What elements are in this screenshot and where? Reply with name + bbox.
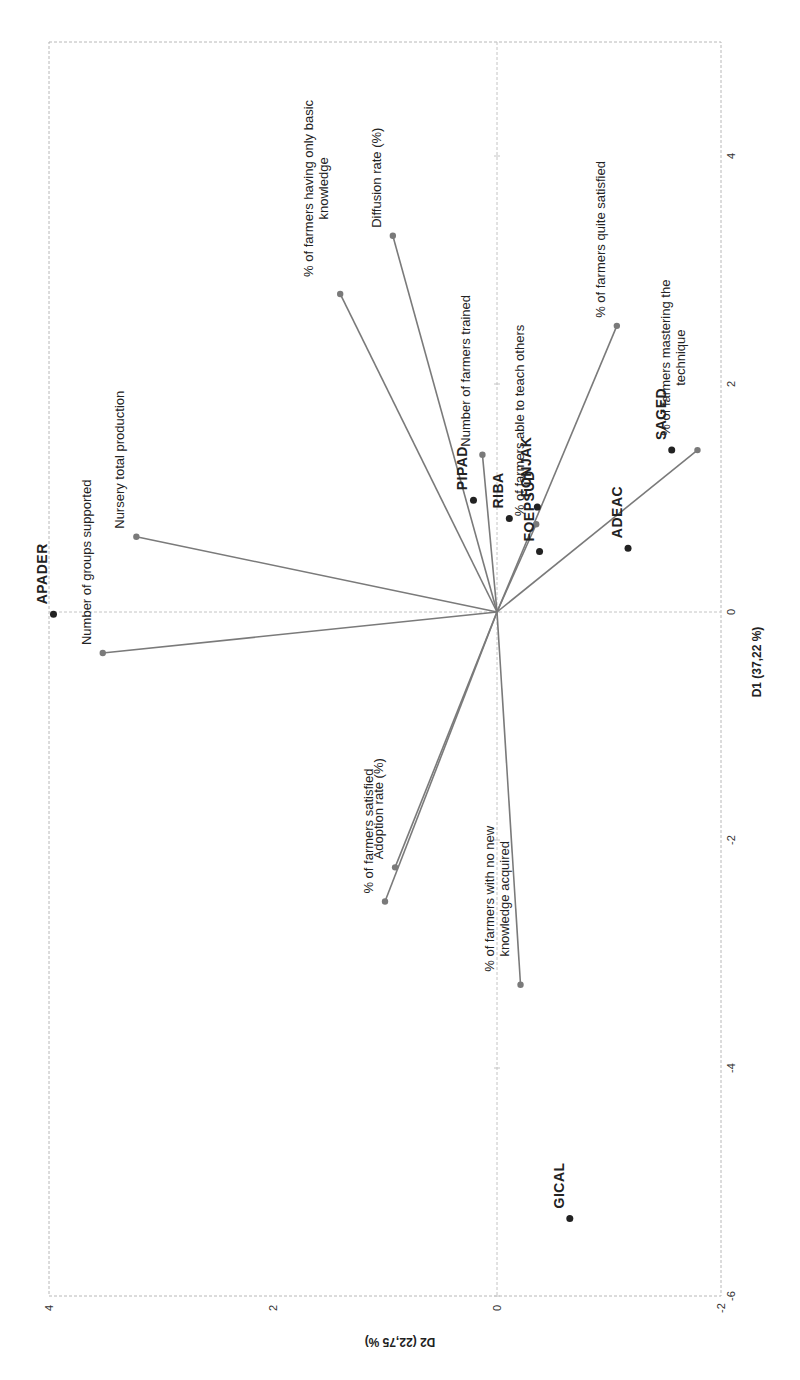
x-axis-title: D1 (37,22 %) [750, 627, 764, 698]
observation-marker [536, 548, 543, 555]
x-tick-label: 4 [725, 153, 737, 159]
vector-line [136, 537, 497, 612]
observation-point: PIPAD [454, 446, 477, 504]
observation-marker [566, 1215, 573, 1222]
vector-endpoint [133, 534, 139, 540]
axis-titles: D1 (37,22 %) D2 (22,75 %) [365, 627, 764, 1349]
variable-label: knowledge [316, 157, 331, 219]
observation-points: APADERPIPADRIBAFONJAKFOEPSUDADEACSAGEDGI… [34, 388, 675, 1222]
plot-area-border [49, 42, 721, 1296]
variable-vectors: Number of groups supportedNursery total … [79, 99, 701, 988]
observation-marker [625, 545, 632, 552]
vector-endpoint [614, 323, 620, 329]
x-tick-label: -6 [725, 1291, 737, 1301]
observation-label: RIBA [490, 472, 506, 508]
x-tick-label: -4 [725, 1063, 737, 1073]
variable-vector: % of farmers with no newknowledge acquir… [482, 612, 524, 988]
vector-endpoint [337, 291, 343, 297]
variable-label: technique [673, 329, 688, 385]
plot-frame [49, 42, 721, 1296]
variable-label: knowledge acquired [497, 841, 512, 957]
variable-vector: Adoption rate (%) [371, 612, 497, 871]
vector-line [340, 294, 497, 612]
observation-point: GICAL [551, 1162, 574, 1222]
vector-endpoint [100, 650, 106, 656]
vector-endpoint [390, 233, 396, 239]
variable-label: % of farmers having only basic [301, 99, 316, 277]
pca-biplot: -6-4-2024-2024 Number of groups supporte… [0, 0, 800, 1380]
vector-endpoint [517, 982, 523, 988]
observation-label: APADER [34, 543, 50, 604]
observation-point: APADER [34, 543, 57, 618]
variable-label: Diffusion rate (%) [369, 128, 384, 228]
vector-line [385, 612, 497, 902]
observation-marker [668, 447, 675, 454]
y-tick-label: 2 [267, 1305, 279, 1311]
x-tick-label: 2 [725, 381, 737, 387]
observation-label: FOEPSUD [521, 470, 537, 541]
variable-label: % of farmers with no new [482, 825, 497, 972]
vector-endpoint [382, 898, 388, 904]
vector-line [103, 612, 497, 653]
y-tick-label: 0 [491, 1305, 503, 1311]
x-tick-label: 0 [725, 609, 737, 615]
y-tick-label: -2 [715, 1303, 727, 1313]
observation-label: ADEAC [609, 486, 625, 538]
observation-label: SAGED [653, 388, 669, 440]
variable-label: Number of farmers trained [458, 295, 473, 447]
variable-label: % of farmers satisfied [361, 769, 376, 894]
observation-point: RIBA [490, 472, 513, 522]
y-axis-title: D2 (22,75 %) [365, 1335, 436, 1349]
variable-vector: Nursery total production [112, 391, 497, 612]
observation-point: FOEPSUD [521, 470, 544, 555]
variable-label: Nursery total production [112, 391, 127, 529]
variable-label: Number of groups supported [79, 480, 94, 645]
observation-label: GICAL [551, 1162, 567, 1208]
x-tick-label: -2 [725, 835, 737, 845]
vector-endpoint [694, 447, 700, 453]
variable-vector: Diffusion rate (%) [369, 128, 497, 612]
axes: -6-4-2024-2024 [43, 42, 737, 1313]
observation-marker [506, 515, 513, 522]
observation-marker [470, 497, 477, 504]
vector-endpoint [479, 451, 485, 457]
y-tick-label: 4 [43, 1305, 55, 1311]
variable-label: % of farmers quite satisfied [593, 161, 608, 318]
vector-line [393, 236, 497, 612]
observation-marker [50, 611, 57, 618]
observation-point: ADEAC [609, 486, 632, 552]
observation-label: PIPAD [454, 446, 470, 490]
